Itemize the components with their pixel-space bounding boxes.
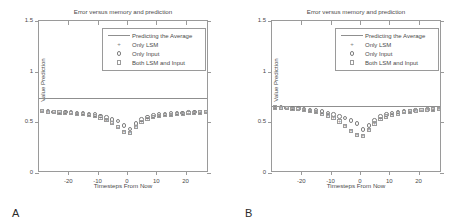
data-point-square bbox=[367, 128, 371, 132]
y-axis-label: Value Prediction bbox=[40, 50, 46, 110]
data-point-square bbox=[192, 111, 196, 115]
data-point-square bbox=[290, 107, 294, 111]
y-axis-label: Value Prediction bbox=[273, 50, 279, 110]
plot-title: Error versus memory and prediction bbox=[38, 8, 208, 15]
legend-plus-icon: + bbox=[339, 40, 365, 49]
data-point-square bbox=[116, 125, 120, 129]
data-point-circle bbox=[116, 119, 120, 123]
legend-line-icon bbox=[106, 35, 132, 36]
legend-item-label: Predicting the Average bbox=[132, 33, 192, 39]
legend-item-label: Both LSM and Input bbox=[132, 60, 185, 66]
data-point-square bbox=[396, 111, 400, 115]
y-tick bbox=[268, 173, 272, 174]
x-tick bbox=[127, 21, 128, 25]
legend-item-label: Only Input bbox=[365, 51, 392, 57]
x-tick bbox=[389, 21, 390, 25]
y-tick bbox=[35, 173, 39, 174]
data-point-square bbox=[75, 112, 79, 116]
data-point-square bbox=[69, 111, 73, 115]
data-point-square bbox=[157, 114, 161, 118]
legend-square-icon bbox=[339, 60, 365, 64]
data-point-square bbox=[204, 110, 208, 114]
y-tick bbox=[440, 72, 444, 73]
y-tick-label: 1 bbox=[244, 68, 266, 74]
data-point-square bbox=[372, 121, 376, 125]
panel-letter: A bbox=[12, 207, 20, 219]
y-tick bbox=[207, 72, 211, 73]
y-tick bbox=[35, 21, 39, 22]
data-point-circle bbox=[343, 116, 347, 120]
data-point-square bbox=[122, 130, 126, 134]
panel-b: Error versus memory and prediction Value… bbox=[233, 0, 465, 224]
y-tick-label: 0.5 bbox=[11, 118, 33, 124]
y-tick-label: 1.5 bbox=[244, 17, 266, 23]
data-point-square bbox=[349, 129, 353, 133]
data-point-square bbox=[378, 117, 382, 121]
data-point-square bbox=[431, 107, 435, 111]
x-tick bbox=[419, 21, 420, 25]
y-tick bbox=[440, 173, 444, 174]
y-tick bbox=[207, 173, 211, 174]
data-point-circle bbox=[361, 127, 365, 131]
legend-plus-icon: + bbox=[106, 40, 132, 49]
y-tick-label: 1.5 bbox=[11, 17, 33, 23]
x-tick bbox=[331, 171, 332, 175]
legend-item: +Only LSM bbox=[339, 40, 435, 49]
x-tick bbox=[98, 21, 99, 25]
figure-panels: Error versus memory and prediction Value… bbox=[0, 0, 465, 224]
x-tick bbox=[301, 171, 302, 175]
data-point-square bbox=[134, 125, 138, 129]
data-point-square bbox=[98, 115, 102, 119]
x-tick bbox=[68, 171, 69, 175]
chart-legend: Predicting the Average+Only LSMOnly Inpu… bbox=[335, 28, 439, 71]
x-tick bbox=[331, 21, 332, 25]
legend-circle-icon bbox=[106, 51, 132, 55]
y-tick bbox=[440, 122, 444, 123]
x-tick bbox=[419, 171, 420, 175]
data-point-square bbox=[343, 124, 347, 128]
data-point-square bbox=[139, 120, 143, 124]
y-tick-label: 0 bbox=[11, 169, 33, 175]
legend-item-label: Only Input bbox=[132, 51, 159, 57]
data-point-square bbox=[175, 112, 179, 116]
data-point-square bbox=[390, 113, 394, 117]
legend-item-label: Predicting the Average bbox=[365, 33, 425, 39]
data-point-square bbox=[384, 114, 388, 118]
data-point-square bbox=[151, 115, 155, 119]
data-point-square bbox=[46, 110, 50, 114]
legend-item-label: Both LSM and Input bbox=[365, 60, 418, 66]
legend-item-label: Only LSM bbox=[132, 42, 158, 48]
data-point-square bbox=[169, 113, 173, 117]
legend-item: Predicting the Average bbox=[106, 31, 202, 40]
legend-item: +Only LSM bbox=[106, 40, 202, 49]
plot-axes-a: Value Prediction 00.511.5-20-1001020Pred… bbox=[38, 20, 208, 172]
x-tick bbox=[186, 21, 187, 25]
data-point-square bbox=[437, 107, 441, 111]
plot-title: Error versus memory and prediction bbox=[271, 8, 441, 15]
x-tick bbox=[360, 171, 361, 175]
data-point-square bbox=[63, 111, 67, 115]
data-point-square bbox=[302, 108, 306, 112]
data-point-square bbox=[425, 108, 429, 112]
legend-item: Only Input bbox=[106, 49, 202, 58]
data-point-square bbox=[337, 119, 341, 123]
data-point-square bbox=[296, 107, 300, 111]
y-tick-label: 0.5 bbox=[244, 118, 266, 124]
data-point-square bbox=[186, 111, 190, 115]
data-point-square bbox=[81, 112, 85, 116]
y-tick bbox=[268, 21, 272, 22]
data-point-square bbox=[402, 110, 406, 114]
data-point-square bbox=[181, 112, 185, 116]
data-point-square bbox=[40, 109, 44, 113]
data-point-square bbox=[273, 105, 277, 109]
x-tick bbox=[389, 171, 390, 175]
data-point-circle bbox=[122, 123, 126, 127]
x-tick bbox=[186, 171, 187, 175]
x-tick bbox=[68, 21, 69, 25]
x-tick bbox=[127, 171, 128, 175]
data-point-square bbox=[320, 112, 324, 116]
data-point-square bbox=[308, 109, 312, 113]
x-tick bbox=[156, 21, 157, 25]
y-tick bbox=[268, 122, 272, 123]
data-point-square bbox=[355, 133, 359, 137]
